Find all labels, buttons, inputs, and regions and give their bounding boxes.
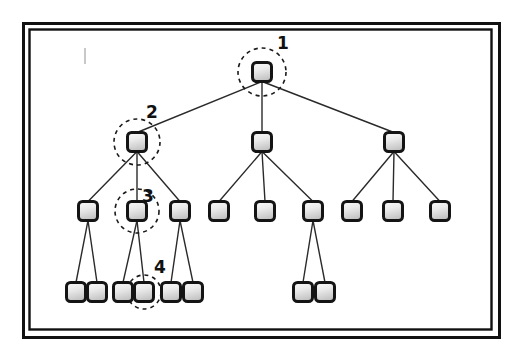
node-square[interactable] (114, 283, 133, 302)
tree-node[interactable] (256, 202, 275, 221)
tree-edge (137, 82, 262, 133)
tree-node[interactable] (343, 202, 362, 221)
tree-node[interactable] (135, 283, 154, 302)
tree-edge (180, 221, 193, 283)
tree-edge (123, 221, 137, 283)
tree-node[interactable] (253, 133, 272, 152)
tree-node[interactable] (316, 283, 335, 302)
tree-nodes (67, 63, 450, 302)
tree-diagram-figure: 1234 (0, 0, 523, 352)
stray-pen-mark-tick (84, 48, 86, 64)
tree-node[interactable] (304, 202, 323, 221)
tree-node[interactable] (79, 202, 98, 221)
tree-edge (76, 221, 88, 283)
tree-edge (88, 221, 97, 283)
tree-edge (262, 152, 265, 202)
node-square[interactable] (256, 202, 275, 221)
tree-node[interactable] (184, 283, 203, 302)
tree-node[interactable] (88, 283, 107, 302)
node-square[interactable] (253, 63, 272, 82)
tree-node[interactable] (114, 283, 133, 302)
node-square[interactable] (294, 283, 313, 302)
tree-edge (137, 221, 144, 283)
tree-node[interactable] (171, 202, 190, 221)
node-square[interactable] (385, 133, 404, 152)
node-square[interactable] (88, 283, 107, 302)
highlight-circles (114, 48, 286, 309)
tree-node[interactable] (385, 133, 404, 152)
tree-edges (76, 82, 440, 283)
tree-edge (262, 152, 313, 202)
node-square[interactable] (128, 133, 147, 152)
node-square[interactable] (316, 283, 335, 302)
tree-node[interactable] (294, 283, 313, 302)
node-square[interactable] (431, 202, 450, 221)
tree-node[interactable] (128, 133, 147, 152)
node-square[interactable] (304, 202, 323, 221)
node-square[interactable] (171, 202, 190, 221)
node-square[interactable] (67, 283, 86, 302)
node-square[interactable] (162, 283, 181, 302)
node-square[interactable] (343, 202, 362, 221)
tree-edge (262, 82, 394, 133)
tree-node[interactable] (253, 63, 272, 82)
node-square[interactable] (253, 133, 272, 152)
tree-node[interactable] (431, 202, 450, 221)
tree-edge (393, 152, 394, 202)
tree-edge (171, 221, 180, 283)
tree-node[interactable] (67, 283, 86, 302)
tree-node[interactable] (162, 283, 181, 302)
node-square[interactable] (384, 202, 403, 221)
tree-edge (394, 152, 440, 202)
stray-pen-mark (84, 48, 86, 64)
tree-edge (219, 152, 262, 202)
tree-edge (313, 221, 325, 283)
tree-node[interactable] (128, 202, 147, 221)
tree-edge (352, 152, 394, 202)
tree-node[interactable] (210, 202, 229, 221)
tree-edge (303, 221, 313, 283)
node-square[interactable] (184, 283, 203, 302)
tree-edge (88, 152, 137, 202)
node-square[interactable] (128, 202, 147, 221)
tree-diagram-canvas (0, 0, 523, 352)
node-square[interactable] (79, 202, 98, 221)
node-square[interactable] (210, 202, 229, 221)
node-square[interactable] (135, 283, 154, 302)
tree-node[interactable] (384, 202, 403, 221)
tree-edge (137, 152, 180, 202)
